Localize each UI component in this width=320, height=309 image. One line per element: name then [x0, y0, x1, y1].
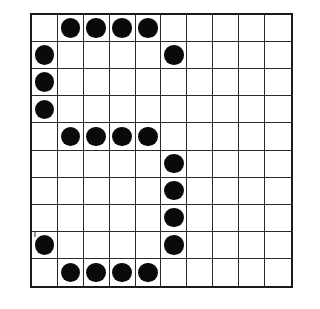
grid-cell[interactable]	[239, 178, 265, 205]
grid-cell[interactable]	[161, 151, 187, 178]
grid-cell[interactable]	[239, 123, 265, 150]
grid-cell[interactable]	[187, 178, 213, 205]
grid-cell[interactable]	[32, 205, 58, 232]
grid-cell[interactable]	[32, 96, 58, 123]
grid-cell[interactable]	[239, 232, 265, 259]
grid-cell[interactable]	[213, 205, 239, 232]
grid-cell[interactable]	[110, 232, 136, 259]
grid-cell[interactable]	[110, 259, 136, 286]
grid-cell[interactable]	[213, 42, 239, 69]
grid-cell[interactable]	[265, 205, 291, 232]
grid-cell[interactable]	[136, 259, 162, 286]
grid-cell[interactable]	[110, 96, 136, 123]
grid-cell[interactable]	[58, 178, 84, 205]
grid-cell[interactable]	[213, 123, 239, 150]
grid-cell[interactable]	[265, 178, 291, 205]
grid-cell[interactable]	[84, 96, 110, 123]
grid-cell[interactable]	[136, 15, 162, 42]
grid-cell[interactable]	[213, 178, 239, 205]
grid-cell[interactable]	[110, 15, 136, 42]
grid-cell[interactable]	[213, 151, 239, 178]
grid-cell[interactable]	[239, 15, 265, 42]
grid-cell[interactable]	[32, 15, 58, 42]
grid-cell[interactable]	[32, 178, 58, 205]
grid-cell[interactable]	[136, 205, 162, 232]
grid-cell[interactable]	[187, 151, 213, 178]
grid-cell[interactable]	[161, 15, 187, 42]
grid-cell[interactable]	[161, 123, 187, 150]
grid-cell[interactable]	[213, 259, 239, 286]
grid-cell[interactable]	[187, 42, 213, 69]
grid-cell[interactable]	[58, 205, 84, 232]
grid-cell[interactable]	[161, 42, 187, 69]
grid-cell[interactable]	[213, 232, 239, 259]
grid-cell[interactable]	[84, 123, 110, 150]
grid-cell[interactable]	[136, 151, 162, 178]
grid-cell[interactable]	[265, 123, 291, 150]
grid-cell[interactable]	[187, 96, 213, 123]
grid-cell[interactable]	[239, 205, 265, 232]
grid-cell[interactable]	[239, 96, 265, 123]
grid-cell[interactable]	[110, 123, 136, 150]
grid-cell[interactable]	[187, 15, 213, 42]
grid-cell[interactable]	[161, 178, 187, 205]
grid-cell[interactable]	[32, 69, 58, 96]
grid-cell[interactable]	[84, 42, 110, 69]
grid-cell[interactable]	[58, 96, 84, 123]
grid-cell[interactable]	[58, 151, 84, 178]
grid-cell[interactable]	[84, 178, 110, 205]
grid-cell[interactable]	[32, 259, 58, 286]
grid-cell[interactable]	[32, 123, 58, 150]
grid-cell[interactable]	[161, 69, 187, 96]
grid-cell[interactable]	[136, 232, 162, 259]
grid-cell[interactable]	[136, 178, 162, 205]
grid-cell[interactable]	[136, 69, 162, 96]
grid-cell[interactable]	[265, 151, 291, 178]
grid-cell[interactable]	[265, 232, 291, 259]
grid-cell[interactable]	[161, 259, 187, 286]
grid-cell[interactable]	[58, 15, 84, 42]
grid-cell[interactable]	[265, 69, 291, 96]
grid-cell[interactable]	[136, 96, 162, 123]
grid-cell[interactable]	[58, 259, 84, 286]
grid-cell[interactable]	[32, 151, 58, 178]
grid-cell[interactable]	[84, 232, 110, 259]
grid-cell[interactable]	[213, 69, 239, 96]
grid-cell[interactable]	[265, 15, 291, 42]
grid-cell[interactable]	[161, 96, 187, 123]
grid-cell[interactable]	[110, 205, 136, 232]
grid-cell[interactable]	[239, 259, 265, 286]
grid-cell[interactable]	[58, 123, 84, 150]
grid-cell[interactable]	[84, 151, 110, 178]
grid-cell[interactable]	[84, 259, 110, 286]
grid-cell[interactable]	[58, 69, 84, 96]
grid-cell[interactable]	[110, 42, 136, 69]
grid-cell[interactable]	[161, 232, 187, 259]
grid-cell[interactable]	[239, 151, 265, 178]
grid-cell[interactable]	[213, 96, 239, 123]
grid-cell[interactable]	[84, 15, 110, 42]
grid-cell[interactable]	[265, 259, 291, 286]
grid-cell[interactable]	[239, 69, 265, 96]
grid-cell[interactable]	[213, 15, 239, 42]
grid-cell[interactable]	[265, 96, 291, 123]
grid-cell[interactable]	[58, 42, 84, 69]
grid-cell[interactable]	[110, 69, 136, 96]
grid-cell[interactable]	[58, 232, 84, 259]
grid-cell[interactable]	[187, 232, 213, 259]
grid-cell[interactable]	[187, 205, 213, 232]
grid-cell[interactable]	[136, 123, 162, 150]
dot-grid[interactable]	[30, 13, 293, 288]
grid-cell[interactable]	[110, 151, 136, 178]
grid-cell[interactable]	[265, 42, 291, 69]
grid-cell[interactable]	[110, 178, 136, 205]
grid-cell[interactable]	[32, 42, 58, 69]
grid-cell[interactable]	[187, 259, 213, 286]
grid-cell[interactable]	[239, 42, 265, 69]
grid-cell[interactable]	[84, 69, 110, 96]
grid-cell[interactable]	[136, 42, 162, 69]
grid-cell[interactable]	[161, 205, 187, 232]
grid-cell[interactable]	[187, 69, 213, 96]
grid-cell[interactable]	[84, 205, 110, 232]
grid-cell[interactable]	[187, 123, 213, 150]
